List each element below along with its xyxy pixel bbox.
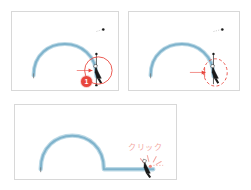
- click-annotation-label: クリック: [128, 141, 162, 152]
- direction-handle-top-dot: [212, 53, 214, 55]
- step-two-illustration: [129, 12, 239, 90]
- step-one-illustration: [12, 12, 118, 90]
- leader-arrow: [89, 69, 93, 73]
- step-one-panel: 1: [11, 11, 119, 91]
- path-curve: [34, 44, 97, 76]
- path-curve-highlight: [34, 44, 97, 76]
- direction-handle-top-dot: [95, 53, 97, 55]
- path-curve-highlight: [151, 44, 214, 76]
- click-point-dot: [149, 165, 152, 168]
- step-two-panel: 2: [128, 11, 240, 91]
- anchor-handle-guide: [96, 30, 102, 32]
- tutorial-figure: 1 2: [0, 0, 251, 190]
- path-curve: [151, 44, 214, 76]
- anchor-point-dot: [221, 28, 224, 31]
- step-badge-1: 1: [81, 76, 92, 87]
- anchor-point-dot: [102, 28, 105, 31]
- anchor-handle-guide: [213, 30, 221, 32]
